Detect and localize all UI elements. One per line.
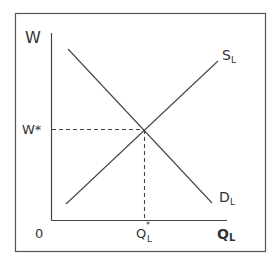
equilibrium-wage-label: W* [22,122,42,137]
eq-quantity-main: Q [136,226,146,241]
supply-label-sub: L [231,55,236,65]
x-axis-label: Q L [217,226,236,243]
y-axis-label: W [25,28,41,47]
eq-quantity-sub: L [147,234,152,244]
origin-label: 0 [35,226,43,241]
x-axis-label-sub: L [229,232,236,243]
demand-curve [68,49,212,203]
demand-label-sub: L [230,197,235,207]
demand-label-main: D [219,189,230,205]
x-axis-label-main: Q [217,226,229,242]
equilibrium-quantity-label: Q * L [136,221,152,244]
supply-curve [66,61,218,204]
eq-quantity-sup: * [146,221,150,230]
demand-label: D L [219,189,235,207]
supply-label: S L [222,47,236,65]
labor-market-diagram: W W* 0 Q * L Q L S L D L [0,0,279,264]
supply-label-main: S [222,47,231,63]
